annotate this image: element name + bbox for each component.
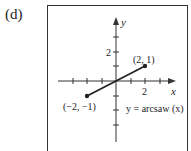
- y-axis-label: y: [120, 16, 126, 28]
- x-axis-label: x: [170, 85, 176, 97]
- x-tick-label-2: 2: [142, 86, 147, 97]
- point-label-right: (2, 1): [133, 54, 155, 66]
- endpoint-left: [85, 94, 89, 98]
- point-label-left: (−2, −1): [63, 101, 96, 113]
- graph: y x 2 2 (2, 1) (−2, −1) y = arcsaw (x): [0, 0, 191, 151]
- y-axis-arrow-icon: [113, 17, 119, 25]
- function-label: y = arcsaw (x): [126, 103, 184, 115]
- x-axis-arrow-icon: [168, 78, 176, 84]
- y-tick-label-2: 2: [106, 47, 111, 58]
